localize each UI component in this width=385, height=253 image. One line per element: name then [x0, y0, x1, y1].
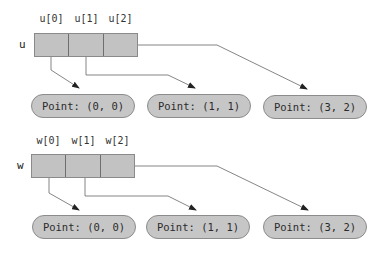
index-label-w1: w[1] — [66, 135, 101, 147]
arrow-w2 — [120, 166, 308, 210]
variable-label-u: u — [19, 39, 26, 51]
index-label-u0: u[0] — [34, 13, 69, 25]
point-object-u1: Point: (1, 1) — [147, 94, 251, 118]
variable-label-w: w — [17, 160, 24, 172]
point-object-w1: Point: (1, 1) — [146, 215, 250, 239]
array-cell-w1 — [66, 155, 100, 177]
array-cell-u1 — [69, 34, 103, 56]
array-reference-diagram: u[0] u[1] u[2] u Point: (0, 0) Point: (1… — [0, 0, 385, 253]
arrow-u2 — [121, 45, 307, 89]
array-w — [31, 154, 135, 178]
point-object-u2: Point: (3, 2) — [263, 95, 367, 119]
index-label-w0: w[0] — [31, 135, 66, 147]
point-object-w0: Point: (0, 0) — [32, 215, 136, 239]
array-cell-w2 — [101, 155, 134, 177]
point-object-w2: Point: (3, 2) — [263, 215, 367, 239]
index-label-u1: u[1] — [69, 13, 104, 25]
index-label-u2: u[2] — [103, 13, 138, 25]
array-cell-w0 — [32, 155, 66, 177]
array-u — [34, 33, 138, 57]
array-cell-u2 — [104, 34, 137, 56]
array-cell-u0 — [35, 34, 69, 56]
point-object-u0: Point: (0, 0) — [31, 94, 135, 118]
index-label-w2: w[2] — [100, 135, 135, 147]
